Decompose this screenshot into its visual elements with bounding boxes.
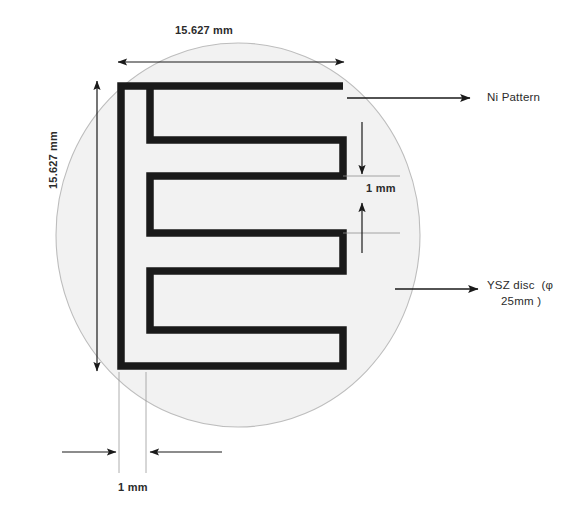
figure-canvas: 15.627 mm 15.627 mm 1 mm 1 mm Ni Pattern… — [0, 0, 580, 516]
callout-label-ysz-disc-line2: 25mm ) — [487, 293, 553, 309]
callout-label-ysz-disc-line1: YSZ disc (φ — [487, 279, 553, 291]
dimension-label-top-width: 15.627 mm — [175, 24, 233, 36]
dimension-label-trace-width: 1 mm — [118, 481, 148, 493]
schematic-drawing — [0, 0, 580, 516]
dimension-label-left-height: 15.627 mm — [47, 131, 59, 189]
callout-label-ni-pattern: Ni Pattern — [487, 91, 540, 103]
dimension-label-gap: 1 mm — [366, 182, 396, 194]
callout-label-ysz-disc: YSZ disc (φ25mm ) — [487, 277, 553, 309]
